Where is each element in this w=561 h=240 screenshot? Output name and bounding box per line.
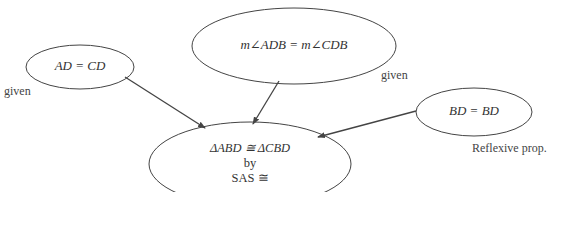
node-ad-cd-label: AD = CD	[26, 58, 134, 74]
arrow-angles-to-conclusion	[253, 81, 279, 124]
reason-ad-cd: given	[4, 84, 31, 99]
reason-bd-bd: Reflexive prop.	[472, 141, 547, 156]
arrow-bd-bd-to-conclusion	[318, 111, 416, 137]
arrow-ad-cd-to-conclusion	[125, 77, 205, 128]
reason-angles: given	[381, 68, 408, 83]
node-conclusion-text: ΔABD ≅ ΔCBD by SAS ≅	[150, 141, 350, 186]
node-angles-label: m∠ADB = m∠CDB	[192, 37, 396, 53]
conclusion-by: by	[150, 156, 350, 171]
conclusion-statement: ΔABD ≅ ΔCBD	[150, 141, 350, 156]
node-bd-bd-label: BD = BD	[416, 103, 532, 119]
conclusion-reason: SAS ≅	[150, 171, 350, 186]
